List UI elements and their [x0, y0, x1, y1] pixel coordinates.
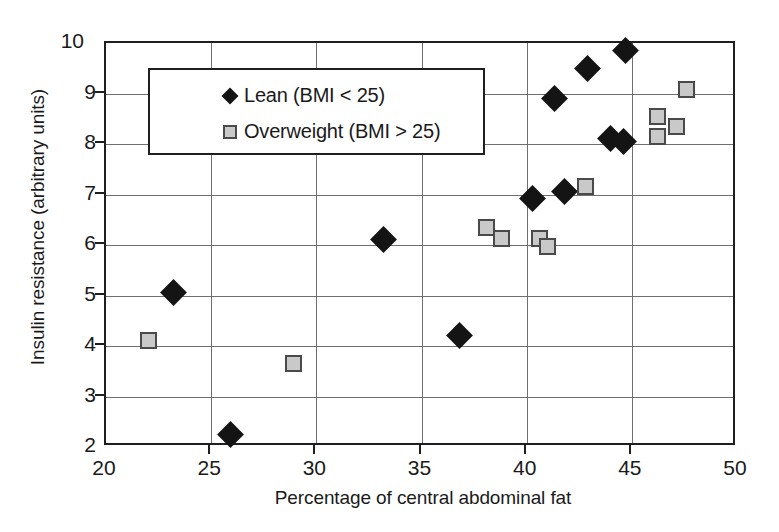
y-tick-label: 3	[56, 384, 96, 405]
gridline-vertical	[632, 43, 633, 443]
x-tick-mark	[313, 445, 315, 454]
data-point-overweight	[649, 108, 666, 125]
data-point-lean	[612, 37, 639, 64]
y-tick-label: 9	[56, 81, 96, 102]
x-axis-title: Percentage of central abdominal fat	[108, 487, 738, 509]
y-tick-mark	[95, 394, 104, 396]
y-tick-label: 2	[56, 434, 96, 455]
x-tick-mark	[524, 445, 526, 454]
data-point-lean	[574, 55, 601, 82]
y-tick-mark	[95, 293, 104, 295]
legend-label-lean: Lean (BMI < 25)	[244, 84, 385, 107]
data-point-lean	[217, 421, 244, 448]
x-tick-mark	[629, 445, 631, 454]
diamond-marker-icon	[220, 84, 242, 106]
data-point-overweight	[649, 128, 666, 145]
x-tick-label: 30	[288, 457, 340, 478]
gridline-horizontal	[106, 296, 733, 297]
y-tick-mark	[95, 192, 104, 194]
legend: Lean (BMI < 25) Overweight (BMI > 25)	[148, 68, 485, 155]
data-point-lean	[160, 280, 187, 307]
data-point-overweight	[678, 81, 695, 98]
y-tick-label: 10	[44, 30, 84, 51]
legend-item-overweight: Overweight (BMI > 25)	[150, 113, 483, 149]
data-point-lean	[370, 227, 397, 254]
data-point-overweight	[577, 178, 594, 195]
x-tick-mark	[208, 445, 210, 454]
y-tick-mark	[95, 91, 104, 93]
y-axis-title: Insulin resistance (arbitrary units)	[27, 17, 49, 437]
x-tick-label: 40	[499, 457, 551, 478]
y-tick-label: 4	[56, 333, 96, 354]
data-point-lean	[551, 179, 578, 206]
gridline-horizontal	[106, 397, 733, 398]
data-point-overweight	[140, 332, 157, 349]
data-point-overweight	[285, 355, 302, 372]
x-tick-label: 45	[604, 457, 656, 478]
data-point-lean	[520, 185, 547, 212]
legend-item-lean: Lean (BMI < 25)	[150, 77, 483, 113]
gridline-horizontal	[106, 195, 733, 196]
y-tick-mark	[95, 242, 104, 244]
y-tick-mark	[95, 343, 104, 345]
data-point-overweight	[668, 118, 685, 135]
gridline-horizontal	[106, 346, 733, 347]
y-tick-mark	[95, 141, 104, 143]
legend-label-overweight: Overweight (BMI > 25)	[244, 120, 440, 143]
data-point-lean	[541, 85, 568, 112]
y-tick-label: 6	[56, 232, 96, 253]
data-point-overweight	[539, 238, 556, 255]
square-marker-icon	[220, 120, 242, 142]
x-tick-label: 50	[709, 457, 761, 478]
data-point-overweight	[493, 230, 510, 247]
x-tick-label: 20	[78, 457, 130, 478]
y-tick-label: 7	[56, 182, 96, 203]
scatter-chart-figure: Insulin resistance (arbitrary units) Per…	[0, 0, 779, 532]
x-tick-mark	[419, 445, 421, 454]
gridline-horizontal	[106, 245, 733, 246]
x-tick-label: 35	[394, 457, 446, 478]
y-tick-label: 5	[56, 283, 96, 304]
y-tick-label: 8	[56, 131, 96, 152]
x-tick-label: 25	[183, 457, 235, 478]
gridline-vertical	[527, 43, 528, 443]
